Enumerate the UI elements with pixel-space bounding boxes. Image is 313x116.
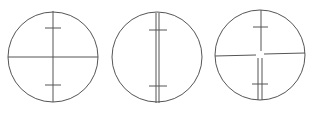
reticle-single-crosshair — [8, 11, 98, 102]
reticle-split-crosshair — [215, 10, 305, 100]
reticle-circle — [112, 12, 202, 102]
reticle-double-vertical — [112, 12, 202, 103]
horizontal-line-right — [264, 53, 305, 54]
reticle-circle — [215, 10, 305, 100]
reticle-diagram — [0, 0, 313, 116]
horizontal-line-left — [215, 55, 256, 56]
